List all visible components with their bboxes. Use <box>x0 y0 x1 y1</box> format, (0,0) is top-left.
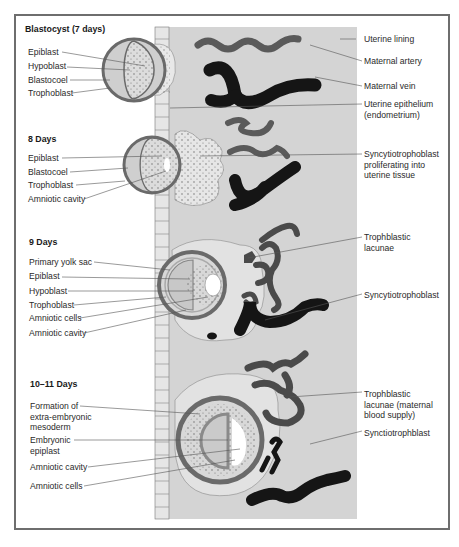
label-primary-yolk-sac-9: Primary yolk sac <box>29 257 92 268</box>
label-hypoblast-7: Hypoblast <box>28 61 66 72</box>
label-trophoblastic-lacunae-9: Trophblastic lacunae <box>364 232 411 253</box>
label-amniotic-cells-9: Amniotic cells <box>29 313 82 324</box>
label-trophoblast-8: Trophoblast <box>28 180 73 191</box>
label-trophoblast-7: Trophoblast <box>28 88 73 99</box>
label-extra-embryonic-mesoderm: Formation of extra-embryonic mesoderm <box>30 401 92 433</box>
label-syncytiotrophoblast-9: Syncytiotrophoblast <box>364 290 439 301</box>
label-uterine-lining: Uterine lining <box>364 34 414 45</box>
label-maternal-artery: Maternal artery <box>364 56 422 67</box>
label-amniotic-cavity-8: Amniotic cavity <box>28 194 85 205</box>
label-blastocoel-8: Blastocoel <box>28 167 68 178</box>
blastocyst-7-days <box>103 39 175 101</box>
label-amniotic-cells-10: Amniotic cells <box>30 481 83 492</box>
label-amniotic-cavity-10: Amniotic cavity <box>30 462 87 473</box>
label-trophoblastic-lacunae-10: Trophblastic lacunae (maternal blood sup… <box>364 389 433 421</box>
label-amniotic-cavity-9: Amniotic cavity <box>29 328 86 339</box>
label-embryonic-epiplast: Embryonic epiplast <box>30 435 71 456</box>
stage-heading-10-11-days: 10–11 Days <box>30 379 77 389</box>
label-epiblast-8: Epiblast <box>28 153 59 164</box>
label-trophoblast-9: Trophoblast <box>29 300 74 311</box>
label-epiblast-7: Epiblast <box>28 47 59 58</box>
label-hypoblast-9: Hypoblast <box>29 286 67 297</box>
label-uterine-epithelium: Uterine epithelium (endometrium) <box>364 99 433 120</box>
label-blastocoel-7: Blastocoel <box>28 75 68 86</box>
stage-heading-7-days: Blastocyst (7 days) <box>25 24 105 34</box>
label-synctiotrophblast-10: Synctiotrophblast <box>364 428 430 439</box>
label-epiblast-9: Epiblast <box>29 271 60 282</box>
stage-heading-9-days: 9 Days <box>29 237 57 247</box>
stage-heading-8-days: 8 Days <box>28 134 56 144</box>
label-syncytiotrophoblast-proliferating: Syncytiotrophoblast proliferating into u… <box>364 149 439 181</box>
label-maternal-vein: Maternal vein <box>364 81 416 92</box>
